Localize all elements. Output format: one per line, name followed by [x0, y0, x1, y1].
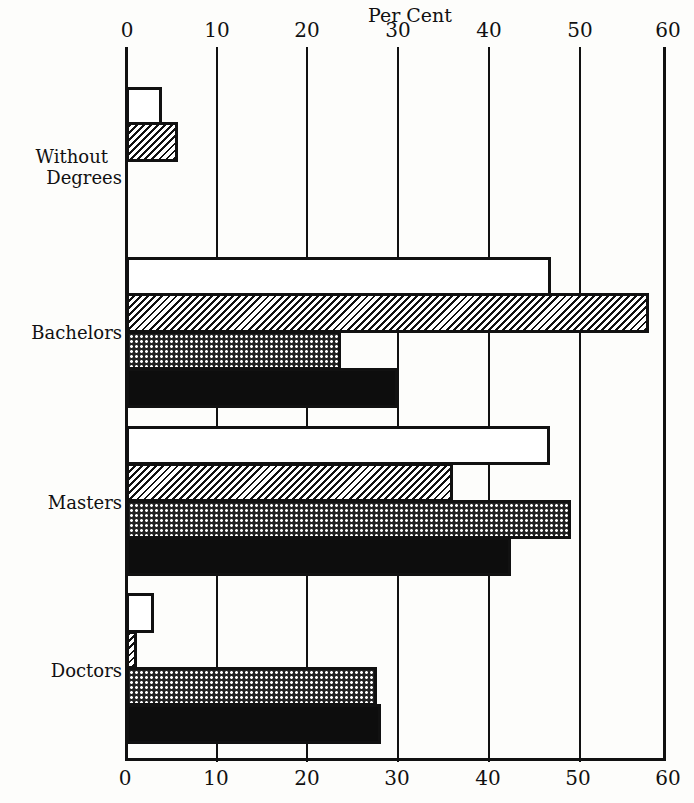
category-label-without-degrees: Without Degrees: [36, 146, 122, 188]
bar-masters-black: [126, 537, 511, 576]
x-tick-top-30: 30: [378, 18, 418, 42]
category-label-line2: Degrees: [36, 167, 122, 188]
x-tick-bottom-30: 30: [377, 766, 417, 790]
category-label-bachelors: Bachelors: [31, 322, 122, 343]
bar-bachelors-black: [126, 368, 398, 408]
x-tick-top-10: 10: [197, 18, 237, 42]
x-tick-top-60: 60: [648, 18, 688, 42]
bar-masters-white: [126, 426, 550, 465]
gridline-50: [579, 47, 581, 762]
x-tick-top-0: 0: [107, 18, 147, 42]
bar-bachelors-white: [126, 257, 551, 296]
x-tick-bottom-40: 40: [468, 766, 508, 790]
bar-doctors-hatch: [126, 631, 137, 669]
x-tick-bottom-20: 20: [287, 766, 327, 790]
x-tick-top-40: 40: [469, 18, 509, 42]
x-tick-bottom-10: 10: [196, 766, 236, 790]
category-label-line1: Without: [36, 146, 108, 167]
bar-bachelors-crosshatch: [126, 331, 341, 370]
category-label-doctors: Doctors: [51, 660, 122, 681]
bar-masters-hatch: [126, 463, 453, 502]
x-tick-bottom-0: 0: [105, 766, 145, 790]
bar-without-degrees-white: [126, 87, 162, 125]
x-tick-top-50: 50: [560, 18, 600, 42]
bar-doctors-black: [126, 704, 381, 744]
bar-masters-crosshatch: [126, 500, 571, 539]
bar-doctors-white: [126, 593, 154, 633]
bar-without-degrees-hatch: [126, 122, 178, 162]
bar-bachelors-hatch: [126, 293, 649, 333]
gridline-40: [488, 47, 490, 762]
x-tick-bottom-60: 60: [648, 766, 688, 790]
x-tick-top-20: 20: [287, 18, 327, 42]
bar-doctors-crosshatch: [126, 667, 377, 706]
x-tick-bottom-50: 50: [558, 766, 598, 790]
category-label-masters: Masters: [48, 492, 122, 513]
